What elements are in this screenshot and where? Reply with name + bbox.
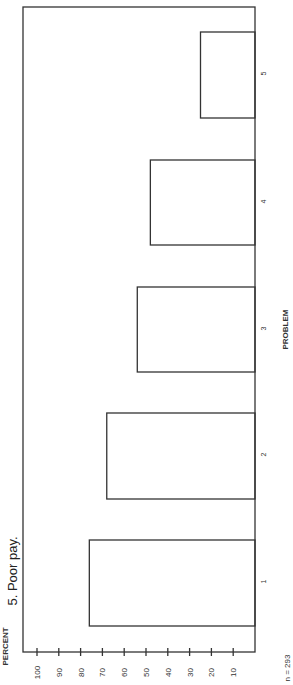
tick-label: 70 xyxy=(98,661,107,685)
y-axis-title: PERCENT xyxy=(1,616,10,666)
bar-problem-3 xyxy=(137,287,255,372)
bar-problem-4 xyxy=(150,160,255,245)
tick-label: 100 xyxy=(33,661,42,685)
x-axis-title: PROBLEM xyxy=(281,305,290,355)
tick-label: 40 xyxy=(163,661,172,685)
plot-frame xyxy=(23,7,255,652)
category-label: 2 xyxy=(260,450,267,460)
tick-label: 60 xyxy=(120,661,129,685)
bar-problem-2 xyxy=(107,413,255,499)
bar-problem-1 xyxy=(89,540,255,626)
sample-size-note: n = 293 xyxy=(283,632,292,682)
category-label: 3 xyxy=(260,323,267,333)
bar-problem-5 xyxy=(201,32,256,118)
tick-label: 50 xyxy=(142,661,151,685)
bar-chart: 5. Poor pay. PERCENT PROBLEM n = 293 102… xyxy=(0,0,293,685)
tick-label: 90 xyxy=(54,661,63,685)
tick-label: 80 xyxy=(76,661,85,685)
tick-label: 30 xyxy=(185,661,194,685)
chart-title: 5. Poor pay. xyxy=(5,506,20,606)
category-label: 5 xyxy=(260,69,267,79)
chart-frame xyxy=(0,0,293,685)
tick-label: 20 xyxy=(207,661,216,685)
category-label: 1 xyxy=(260,577,267,587)
tick-label: 10 xyxy=(229,661,238,685)
category-label: 4 xyxy=(260,196,267,206)
